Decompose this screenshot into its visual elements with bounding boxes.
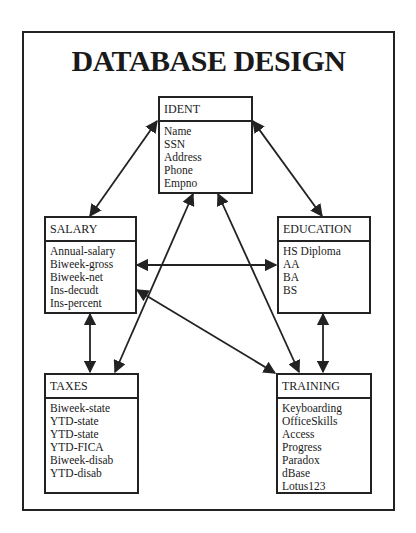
field: Keyboarding [282,402,370,415]
field: BS [283,284,369,297]
field: HS Diploma [283,245,369,258]
field: Biweek-gross [50,258,135,271]
field: YTD-state [50,428,137,441]
entity-education-fields: HS Diploma AA BA BS [279,242,369,297]
entity-education-title: EDUCATION [279,218,369,242]
field: Progress [282,441,370,454]
field: YTD-state [50,415,137,428]
entity-ident-fields: Name SSN Address Phone Empno [160,122,251,190]
entity-salary: SALARY Annual-salary Biweek-gross Biweek… [44,216,137,314]
field: Ins-decudt [50,284,135,297]
entity-training-title: TRAINING [278,375,370,399]
field: Address [164,151,251,164]
field: YTD-disab [50,467,137,480]
entity-ident: IDENT Name SSN Address Phone Empno [158,96,253,194]
entity-training-fields: Keyboarding OfficeSkills Access Progress… [278,399,370,493]
entity-taxes: TAXES Biweek-state YTD-state YTD-state Y… [44,373,139,494]
field: dBase [282,467,370,480]
field: Ins-percent [50,297,135,310]
diagram-title: DATABASE DESIGN [22,44,395,78]
field: Access [282,428,370,441]
field: Biweek-disab [50,454,137,467]
entity-training: TRAINING Keyboarding OfficeSkills Access… [276,373,372,494]
field: OfficeSkills [282,415,370,428]
field: Paradox [282,454,370,467]
field: Phone [164,164,251,177]
field: Biweek-net [50,271,135,284]
entity-salary-title: SALARY [46,218,135,242]
field: Empno [164,177,251,190]
entity-salary-fields: Annual-salary Biweek-gross Biweek-net In… [46,242,135,310]
field: Biweek-state [50,402,137,415]
field: BA [283,271,369,284]
field: YTD-FICA [50,441,137,454]
entity-taxes-title: TAXES [46,375,137,399]
field: Lotus123 [282,480,370,493]
field: AA [283,258,369,271]
field: Name [164,125,251,138]
field: Annual-salary [50,245,135,258]
entity-education: EDUCATION HS Diploma AA BA BS [277,216,371,314]
entity-ident-title: IDENT [160,98,251,122]
entity-taxes-fields: Biweek-state YTD-state YTD-state YTD-FIC… [46,399,137,480]
field: SSN [164,138,251,151]
